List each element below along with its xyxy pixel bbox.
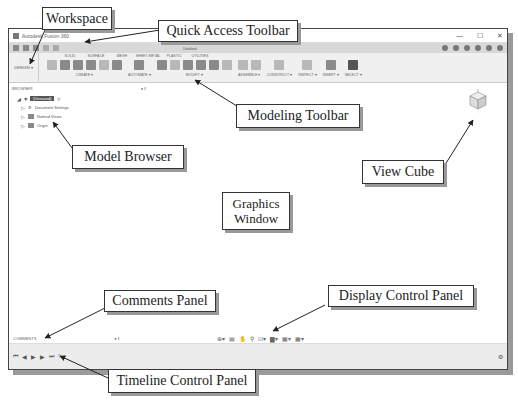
assemble-group[interactable]: ASSEMBLE ▾ <box>238 60 261 77</box>
fit-icon[interactable]: ⊡▾ <box>258 335 266 342</box>
save-icon[interactable] <box>33 45 39 51</box>
visibility-icon[interactable]: ◉ <box>24 96 27 101</box>
timeline-marker-icon[interactable]: ⫯ <box>58 353 61 360</box>
callout-modeling-toolbar: Modeling Toolbar <box>236 104 360 128</box>
modify-group[interactable]: MODIFY ▾ <box>157 60 232 77</box>
joint-icon[interactable] <box>251 60 261 70</box>
display-settings-icon[interactable]: ▆▾ <box>270 335 278 342</box>
timeline-settings-icon[interactable]: ⚙ <box>498 353 503 360</box>
redo-icon[interactable] <box>53 45 59 51</box>
modeling-toolbar: DESIGN ▾ SOLID SURFACE MESH SHEET METAL … <box>9 53 507 83</box>
insert-image-icon[interactable] <box>326 60 336 70</box>
new-component-icon[interactable] <box>238 60 248 70</box>
view-cube[interactable] <box>467 89 489 111</box>
folder-icon <box>28 123 34 128</box>
revolve-icon[interactable] <box>73 60 83 70</box>
callout-quick-access-toolbar: Quick Access Toolbar <box>158 20 298 42</box>
box-icon[interactable] <box>99 60 109 70</box>
select-group[interactable]: SELECT ▾ <box>345 60 362 77</box>
plane-icon[interactable] <box>274 60 284 70</box>
callout-timeline-control-panel: Timeline Control Panel <box>108 369 256 393</box>
grid-icon[interactable]: ▦▾ <box>282 335 291 342</box>
step-back-icon[interactable]: ◀ <box>22 353 27 360</box>
tab-surface[interactable]: SURFACE <box>83 54 109 58</box>
tree-item[interactable]: ▷ ⚙ Document Settings <box>17 103 69 112</box>
expand-icon[interactable]: ▷ <box>21 123 25 129</box>
expand-icon[interactable]: ◢ <box>17 96 21 102</box>
construct-group[interactable]: CONSTRUCT ▾ <box>267 60 293 77</box>
file-menu-icon[interactable] <box>23 45 29 51</box>
tab-utilities[interactable]: UTILITIES <box>187 54 213 58</box>
pan-icon[interactable]: ✋ <box>239 335 246 342</box>
model-browser: ◢ ◉ (Unsaved) ◎ ▷ ⚙ Document Settings ▷ … <box>17 94 69 130</box>
offset-face-icon[interactable] <box>209 60 219 70</box>
move-icon[interactable] <box>222 60 232 70</box>
minimize-button[interactable]: — <box>456 32 463 40</box>
extensions-icon[interactable] <box>453 45 459 51</box>
go-to-start-icon[interactable]: ⏮ <box>13 353 18 360</box>
sweep-icon[interactable] <box>86 60 96 70</box>
expand-icon[interactable]: ▷ <box>21 114 25 120</box>
gear-icon: ⚙ <box>28 105 32 110</box>
close-button[interactable]: ✕ <box>497 32 503 40</box>
go-to-end-icon[interactable]: ⏭ <box>49 353 54 360</box>
quick-access-toolbar: Untitled <box>9 43 507 53</box>
automate-group[interactable]: AUTOMATE ▾ <box>128 60 151 77</box>
expand-icon[interactable]: ▷ <box>21 105 25 111</box>
tree-item[interactable]: ▷ Named Views <box>17 112 69 121</box>
user-avatar-icon[interactable] <box>497 45 503 51</box>
create-group[interactable]: CREATE ▾ <box>47 60 122 77</box>
folder-icon <box>28 114 34 119</box>
help-icon[interactable] <box>486 45 492 51</box>
callout-workspace: Workspace <box>42 7 112 30</box>
insert-group[interactable]: INSERT ▾ <box>323 60 339 77</box>
select-cursor-icon[interactable] <box>348 60 358 70</box>
inspect-group[interactable]: INSPECT ▾ <box>298 60 317 77</box>
measure-icon[interactable] <box>302 60 312 70</box>
new-tab-icon[interactable] <box>442 45 448 51</box>
window-title: Autodesk Fusion 360 <box>22 33 69 39</box>
pin-icon[interactable]: ● ‖ <box>141 86 146 91</box>
shell-icon[interactable] <box>183 60 193 70</box>
undo-icon[interactable] <box>43 45 49 51</box>
callout-graphics-window: Graphics Window <box>222 192 290 230</box>
job-status-icon[interactable] <box>464 45 470 51</box>
orbit-icon[interactable]: ⊕▾ <box>217 335 225 342</box>
callout-comments-panel: Comments Panel <box>104 290 216 312</box>
browser-header[interactable]: BROWSER ● ‖ <box>9 84 149 92</box>
callout-display-control-panel: Display Control Panel <box>328 285 474 307</box>
combine-icon[interactable] <box>196 60 206 70</box>
tab-plastic[interactable]: PLASTIC <box>161 54 187 58</box>
play-icon[interactable]: ▶ <box>31 353 36 360</box>
timeline-control-panel: ⏮ ◀ ▶ ▶ ⏭ ⫯ ⚙ <box>9 343 507 369</box>
fillet-icon[interactable] <box>170 60 180 70</box>
tree-root[interactable]: ◢ ◉ (Unsaved) ◎ <box>17 94 69 103</box>
extrude-icon[interactable] <box>60 60 70 70</box>
display-control-panel: ⊕▾ ▤ ✋ ⚲ ⊡▾ ▆▾ ▦▾ ▦▾ <box>217 335 304 342</box>
activate-icon[interactable]: ◎ <box>57 96 60 101</box>
zoom-icon[interactable]: ⚲ <box>250 335 254 342</box>
document-tab[interactable]: Untitled <box>183 46 197 51</box>
tree-item[interactable]: ▷ Origin <box>17 121 69 130</box>
tab-mesh[interactable]: MESH <box>109 54 135 58</box>
maximize-button[interactable]: ☐ <box>477 32 483 40</box>
form-icon[interactable] <box>112 60 122 70</box>
callout-model-browser: Model Browser <box>72 145 184 169</box>
data-panel-icon[interactable] <box>13 45 19 51</box>
add-comment-icon[interactable]: ● ‖ <box>114 336 119 341</box>
step-forward-icon[interactable]: ▶ <box>40 353 45 360</box>
workspace-switcher[interactable]: DESIGN ▾ <box>9 53 39 81</box>
comments-label: COMMENTS <box>13 336 36 341</box>
viewports-icon[interactable]: ▦▾ <box>295 335 304 342</box>
sketch-icon[interactable] <box>47 60 57 70</box>
automate-icon[interactable] <box>134 60 144 70</box>
look-at-icon[interactable]: ▤ <box>229 335 235 342</box>
tab-sheet-metal[interactable]: SHEET METAL <box>135 54 161 58</box>
app-icon <box>13 33 19 39</box>
notifications-icon[interactable] <box>475 45 481 51</box>
callout-view-cube: View Cube <box>362 160 444 184</box>
press-pull-icon[interactable] <box>157 60 167 70</box>
tab-solid[interactable]: SOLID <box>57 54 83 58</box>
